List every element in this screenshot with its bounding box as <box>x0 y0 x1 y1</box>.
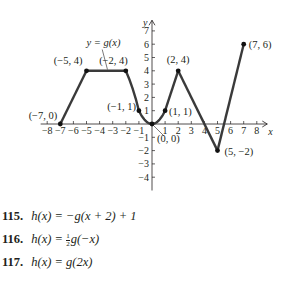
data-point <box>241 42 246 47</box>
exercise-rhs: = g(2x) <box>55 255 93 269</box>
x-axis-label: x <box>267 126 273 137</box>
fraction-denominator: 2 <box>66 241 70 248</box>
x-tick-label: −7 <box>55 125 66 136</box>
point-label: (−5, 4) <box>54 55 83 67</box>
y-tick-label: 7 <box>144 25 149 36</box>
data-point <box>137 108 142 113</box>
x-tick-label: 6 <box>228 125 233 136</box>
exercise-number: 115. <box>2 209 23 223</box>
ticks: −8−7−6−5−4−3−2−112345678−4−3−2−11234567 <box>42 25 259 182</box>
data-point <box>123 68 128 73</box>
y-tick-label: 6 <box>144 39 149 50</box>
exercise-115: 115. h(x) = −g(x + 2) + 1 <box>2 205 137 228</box>
data-point <box>215 148 220 153</box>
exercise-lhs: h(x) <box>31 209 51 223</box>
point-label: (2, 4) <box>167 54 190 66</box>
exercise-117: 117. h(x) = g(2x) <box>2 251 137 274</box>
data-point <box>163 108 168 113</box>
exercise-number: 117. <box>2 255 23 269</box>
y-tick-label: −1 <box>138 132 149 143</box>
exercise-lhs: h(x) <box>31 232 51 246</box>
point-label: (1, 1) <box>169 106 192 118</box>
exercise-rhs: = −g(x + 2) + 1 <box>55 209 137 223</box>
x-tick-label: 7 <box>241 125 246 136</box>
point-label: (5, −2) <box>225 146 254 158</box>
y-tick-label: −3 <box>138 158 149 169</box>
x-tick-label: 5 <box>215 125 220 136</box>
x-tick-label: 8 <box>254 125 259 136</box>
curve-segment <box>60 71 86 124</box>
data-point <box>176 68 181 73</box>
exercise-lhs: h(x) <box>31 255 51 269</box>
x-tick-label: −4 <box>94 125 105 136</box>
x-tick-label: −2 <box>120 125 131 136</box>
x-tick-label: −6 <box>68 125 79 136</box>
exercise-116: 116. h(x) = 12g(−x) <box>2 228 137 251</box>
exercise-rhs-prefix: = <box>55 232 67 246</box>
x-tick-label: −5 <box>81 125 92 136</box>
y-tick-label: 1 <box>144 105 149 116</box>
exercise-rhs: g(−x) <box>71 232 100 246</box>
point-label: (−7, 0) <box>29 110 58 122</box>
axes: xy <box>41 17 274 190</box>
curve-label: y = g(x) <box>86 37 121 49</box>
point-label: (−2, 4) <box>99 55 128 67</box>
point-label: (−1, 1) <box>107 101 136 113</box>
exercise-list: 115. h(x) = −g(x + 2) + 1 116. h(x) = 12… <box>2 205 137 274</box>
fraction: 12 <box>66 233 70 248</box>
exercise-number: 116. <box>2 232 23 246</box>
data-point <box>84 68 89 73</box>
x-tick-label: −3 <box>107 125 118 136</box>
data-point <box>58 122 63 127</box>
y-tick-label: −4 <box>138 172 149 183</box>
point-label: (7, 6) <box>249 39 272 51</box>
y-tick-label: 3 <box>144 79 149 90</box>
y-tick-label: −2 <box>138 145 149 156</box>
y-tick-label: 2 <box>144 92 149 103</box>
y-tick-label: 4 <box>144 65 149 76</box>
y-tick-label: 5 <box>144 52 149 63</box>
point-labels: (−7, 0)(−5, 4)(−2, 4)(−1, 1)(0, 0)(1, 1)… <box>29 39 272 157</box>
x-tick-label: −8 <box>42 125 53 136</box>
graph-g: xy −8−7−6−5−4−3−2−112345678−4−3−2−112345… <box>0 0 291 200</box>
point-label: (0, 0) <box>157 133 180 145</box>
x-tick-label: 3 <box>189 125 194 136</box>
